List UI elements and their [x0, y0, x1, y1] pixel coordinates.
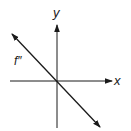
y-axis-label: y [53, 6, 60, 19]
curve-label-f-double-prime: f″ [14, 55, 22, 67]
x-axis-label: x [114, 74, 121, 87]
coordinate-diagram: y x f″ [0, 0, 131, 131]
